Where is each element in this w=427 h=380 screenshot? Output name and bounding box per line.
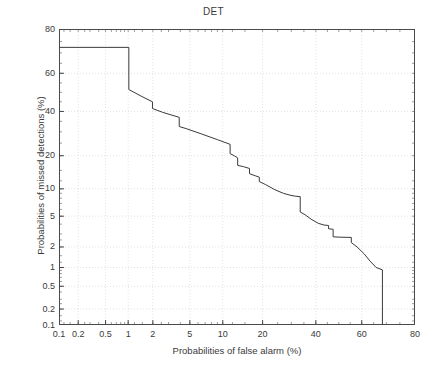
- gridlines: [59, 29, 415, 325]
- x-axis-label: Probabilities of false alarm (%): [59, 345, 415, 356]
- x-tick-label: 2: [138, 330, 168, 339]
- y-tick-label: 0.1: [21, 321, 55, 330]
- x-tick-label: 80: [400, 330, 427, 339]
- plot-canvas: [59, 29, 415, 325]
- y-tick-label: 0.2: [21, 305, 55, 314]
- plot-frame: [60, 30, 415, 325]
- det-chart-figure: DET 0.10.20.51251020406080 0.10.20.51251…: [0, 0, 427, 380]
- x-tick-label: 5: [175, 330, 205, 339]
- x-tick-label: 0.2: [63, 330, 93, 339]
- data-series: [59, 47, 382, 325]
- y-axis-label: Probabilities of missed detections (%): [35, 51, 46, 301]
- plot-area: [59, 29, 415, 325]
- det-curve-line: [59, 47, 382, 325]
- x-tick-label: 60: [347, 330, 377, 339]
- x-tick-label: 40: [301, 330, 331, 339]
- x-tick-label: 10: [208, 330, 238, 339]
- y-tick-label: 80: [21, 25, 55, 34]
- chart-title: DET: [0, 6, 427, 17]
- x-tick-label: 20: [248, 330, 278, 339]
